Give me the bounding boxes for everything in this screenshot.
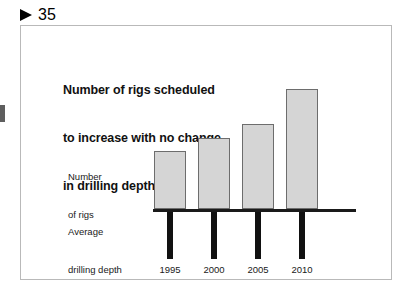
axis-label-average-drilling-depth-line-2: drilling depth <box>68 264 122 277</box>
axis-label-average-drilling-depth: Average drilling depth <box>68 201 122 299</box>
x-axis-tick-label: 2010 <box>279 264 325 275</box>
bar-number-of-rigs <box>242 124 274 209</box>
page-header: 35 <box>20 6 56 24</box>
plot-area: 1995200020052010 <box>133 46 378 276</box>
page-number: 35 <box>38 6 56 24</box>
triangle-right-icon <box>20 9 32 21</box>
axis-label-number-of-rigs-line-1: Number <box>68 171 102 184</box>
bar-average-drilling-depth <box>299 212 305 259</box>
x-axis-tick-label: 2005 <box>235 264 281 275</box>
x-axis-tick-label: 1995 <box>147 264 193 275</box>
bar-column: 2010 <box>279 46 325 276</box>
bar-column: 1995 <box>147 46 193 276</box>
bar-number-of-rigs <box>286 89 318 209</box>
bar-column: 2005 <box>235 46 281 276</box>
bar-number-of-rigs <box>198 138 230 209</box>
page-edge-artifact <box>0 105 5 122</box>
bar-number-of-rigs <box>154 151 186 209</box>
bar-average-drilling-depth <box>167 212 173 259</box>
bar-average-drilling-depth <box>255 212 261 259</box>
bar-column: 2000 <box>191 46 237 276</box>
x-axis-tick-label: 2000 <box>191 264 237 275</box>
axis-label-average-drilling-depth-line-1: Average <box>68 226 122 239</box>
figure-frame: Number of rigs scheduled to increase wit… <box>20 25 392 280</box>
bar-average-drilling-depth <box>211 212 217 259</box>
